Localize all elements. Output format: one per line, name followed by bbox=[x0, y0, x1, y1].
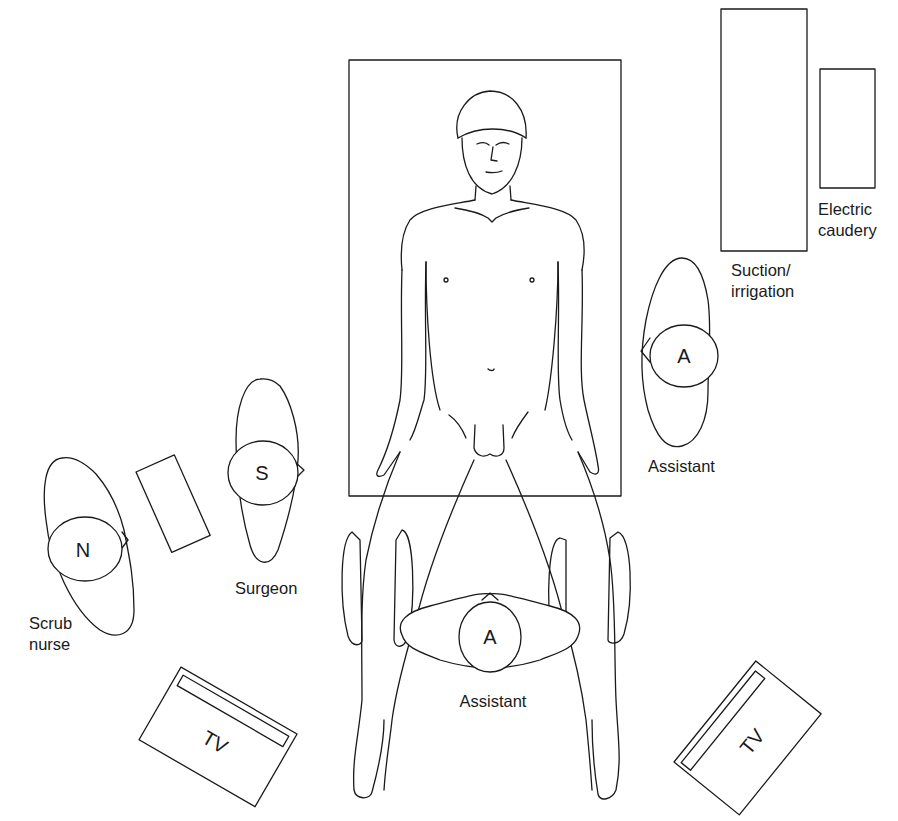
tv-monitor-left: TV bbox=[139, 667, 297, 807]
scrub-nurse-marker: N bbox=[76, 539, 90, 561]
assistant-right: A Assistant bbox=[641, 258, 718, 475]
assistant-right-marker: A bbox=[677, 345, 691, 367]
caudery-label-line2: caudery bbox=[818, 221, 877, 239]
scrub-nurse: N Scrub nurse bbox=[29, 458, 134, 653]
instrument-table bbox=[136, 455, 210, 552]
suction-label-line1: Suction/ bbox=[731, 261, 791, 279]
assistant-bottom: A Assistant bbox=[400, 593, 579, 710]
surgeon-marker: S bbox=[255, 462, 268, 484]
scrub-nurse-label-line1: Scrub bbox=[29, 614, 72, 632]
tv-right-label: TV bbox=[736, 724, 770, 758]
suction-label-line2: irrigation bbox=[731, 282, 794, 300]
or-layout-diagram: Suction/ irrigation Electric caudery bbox=[0, 0, 898, 821]
operating-table bbox=[349, 60, 621, 496]
scrub-nurse-label-line2: nurse bbox=[29, 635, 70, 653]
tv-left-label: TV bbox=[198, 726, 232, 758]
surgeon: S Surgeon bbox=[228, 379, 304, 597]
caudery-label-line1: Electric bbox=[818, 200, 872, 218]
surgeon-label: Surgeon bbox=[235, 579, 297, 597]
assistant-right-label: Assistant bbox=[648, 457, 715, 475]
assistant-bottom-label: Assistant bbox=[460, 692, 527, 710]
suction-irrigation-unit: Suction/ irrigation bbox=[721, 9, 807, 300]
tv-monitor-right: TV bbox=[674, 661, 821, 815]
assistant-bottom-marker: A bbox=[483, 626, 497, 648]
electric-caudery-unit: Electric caudery bbox=[818, 69, 877, 239]
